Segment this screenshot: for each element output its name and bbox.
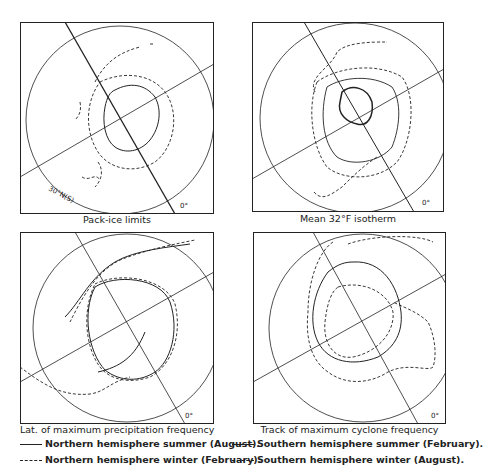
caption-isotherm: Mean 32°F isotherm <box>252 213 444 224</box>
legend-south-winter: Southern hemisphere winter (August). <box>232 454 464 465</box>
caption-cyclone: Track of maximum cyclone frequency <box>253 424 446 435</box>
legend-north-winter: Northern hemisphere winter (February). <box>20 454 261 465</box>
legend-north-summer: Northern hemisphere summer (August). <box>20 438 260 449</box>
dashed-line-swatch <box>20 460 42 461</box>
meridian-label: 0° <box>431 412 439 420</box>
latitude-label: 30°N(S) <box>47 185 75 205</box>
panel-cyclone: 0° <box>253 232 446 424</box>
caption-pack-ice: Pack-ice limits <box>20 214 214 225</box>
caption-precipitation: Lat. of maximum precipitation frequency <box>20 424 214 435</box>
polar-map-precipitation: 0° <box>20 232 214 424</box>
panel-precipitation: 0° <box>20 232 214 424</box>
polar-map-pack-ice: 0° 30°N(S) <box>20 22 214 214</box>
solid-line-swatch <box>232 444 254 445</box>
legend-south-summer: Southern hemisphere summer (February). <box>232 438 483 449</box>
panel-pack-ice: 0° 30°N(S) <box>20 22 214 214</box>
meridian-label: 0° <box>180 202 188 210</box>
solid-line-swatch <box>20 444 42 445</box>
dashed-line-swatch <box>232 460 254 461</box>
meridian-label: 0° <box>185 412 193 420</box>
polar-map-isotherm: 0° <box>252 22 444 212</box>
polar-map-cyclone: 0° <box>253 232 446 424</box>
meridian-label: 0° <box>422 199 430 207</box>
panel-isotherm: 0° <box>252 22 444 212</box>
